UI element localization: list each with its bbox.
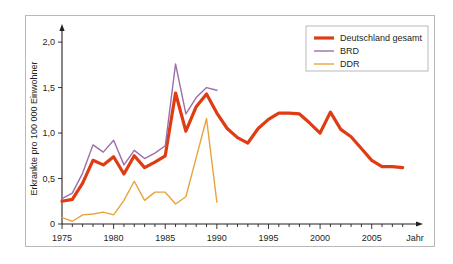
y-axis-title: Erkrankte pro 100 000 Einwohner: [29, 61, 39, 195]
y-axis-tick-label: 0: [50, 219, 55, 229]
legend-label-brd: BRD: [340, 46, 360, 56]
x-axis-title: Jahr: [406, 233, 424, 243]
legend-label-deutschland-gesamt: Deutschland gesamt: [340, 33, 423, 43]
x-axis-tick-label: 1985: [155, 233, 175, 243]
x-axis-tick-label: 1975: [52, 233, 72, 243]
chart-figure: 1975198019851990199520002005Jahr00,51,01…: [0, 0, 453, 264]
y-axis-tick-label: 0,5: [42, 174, 55, 184]
x-axis-tick-label: 1990: [207, 233, 227, 243]
chart-frame: 1975198019851990199520002005Jahr00,51,01…: [25, 15, 435, 247]
x-axis-tick-label: 1980: [104, 233, 124, 243]
legend-label-ddr: DDR: [340, 59, 360, 69]
x-axis-tick-label: 2005: [362, 233, 382, 243]
y-axis-tick-label: 1,5: [42, 83, 55, 93]
x-axis-arrow: [416, 221, 423, 226]
x-axis-tick-label: 1995: [258, 233, 278, 243]
y-axis-tick-label: 1,0: [42, 128, 55, 138]
series-line-ddr: [62, 119, 217, 222]
y-axis-arrow: [59, 24, 64, 31]
line-chart-plot: 1975198019851990199520002005Jahr00,51,01…: [26, 16, 434, 246]
x-axis-tick-label: 2000: [310, 233, 330, 243]
series-line-deutschland-gesamt: [62, 93, 403, 201]
y-axis-tick-label: 2,0: [42, 37, 55, 47]
